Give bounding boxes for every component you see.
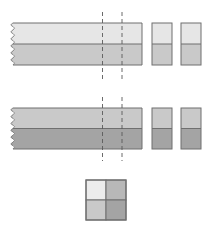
row-1-block-1-bottom-half — [152, 44, 172, 65]
row-1-block-1-top-half — [152, 23, 172, 44]
grid-cell-top-left — [86, 180, 106, 200]
row-2-strip-bottom-half — [11, 129, 142, 150]
row-1-block-2-bottom-half — [181, 44, 201, 65]
diagram-canvas — [0, 0, 211, 235]
row-2-block-2-bottom-half — [181, 129, 201, 150]
grid-cell-top-right — [106, 180, 126, 200]
row-1-block-2-top-half — [181, 23, 201, 44]
grid-cell-bottom-right — [106, 200, 126, 220]
grid-cell-bottom-left — [86, 200, 106, 220]
row-2-block-2-top-half — [181, 108, 201, 129]
row-2-block-1-bottom-half — [152, 129, 172, 150]
row-2-block-1-top-half — [152, 108, 172, 129]
